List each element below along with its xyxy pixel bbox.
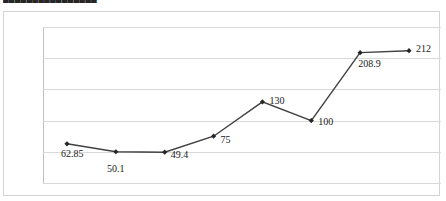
chart-title-clipped: ████████████████ — [3, 0, 203, 3]
data-point-marker — [64, 141, 69, 146]
data-point-label: 49.4 — [171, 150, 189, 160]
chart-title-text: ████████████████ — [3, 0, 203, 3]
data-point-label: 208.9 — [358, 59, 381, 69]
line-series — [43, 27, 441, 183]
data-point-label: 212 — [416, 44, 431, 54]
chart-frame: 050100150200250 200920102011201220132014… — [3, 11, 440, 196]
data-point-marker — [406, 48, 411, 53]
data-point-marker — [162, 150, 167, 155]
data-point-label: 62.85 — [61, 149, 84, 159]
data-point-label: 75 — [221, 135, 231, 145]
data-point-label: 130 — [269, 96, 284, 106]
data-point-label: 100 — [318, 117, 333, 127]
plot-area: 050100150200250 200920102011201220132014… — [43, 27, 441, 183]
data-point-label: 50.1 — [92, 164, 140, 174]
data-point-marker — [113, 149, 118, 154]
gridline — [43, 183, 441, 184]
